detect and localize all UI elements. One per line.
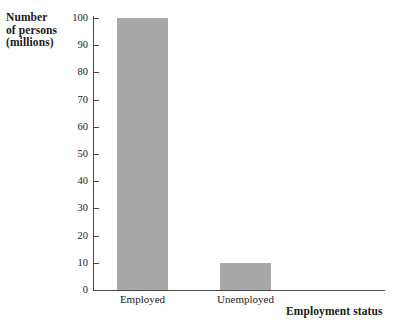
y-axis-tick (94, 290, 99, 291)
y-axis-tick-label: 100 (48, 13, 88, 23)
y-axis-tick-label: 80 (48, 67, 88, 77)
y-axis-tick (94, 72, 99, 73)
y-axis-tick-label: 60 (48, 122, 88, 132)
y-axis-tick (94, 127, 99, 128)
y-axis-tick (94, 45, 99, 46)
x-axis-line (93, 290, 385, 291)
y-axis-tick-label: 40 (48, 176, 88, 186)
y-axis-tick (94, 154, 99, 155)
plot-area: 0102030405060708090100 EmployedUnemploye… (0, 0, 412, 326)
y-axis-tick (94, 100, 99, 101)
y-axis-tick-label: 90 (48, 40, 88, 50)
y-axis-tick-label: 20 (48, 231, 88, 241)
y-axis-tick (94, 236, 99, 237)
x-axis-category-label: Unemployed (186, 293, 306, 305)
y-axis-tick (94, 181, 99, 182)
y-axis-tick-label: 30 (48, 203, 88, 213)
y-axis-tick (94, 18, 99, 19)
x-axis-title: Employment status (286, 305, 383, 317)
y-axis-tick (94, 208, 99, 209)
bar (117, 18, 168, 290)
x-axis-category-label: Employed (83, 293, 203, 305)
y-axis-tick-label: 70 (48, 95, 88, 105)
y-axis-tick-label: 10 (48, 258, 88, 268)
bar-chart: Number of persons (millions) 01020304050… (0, 0, 412, 326)
bar (220, 263, 271, 290)
y-axis-tick-label: 50 (48, 149, 88, 159)
y-axis-tick (94, 263, 99, 264)
